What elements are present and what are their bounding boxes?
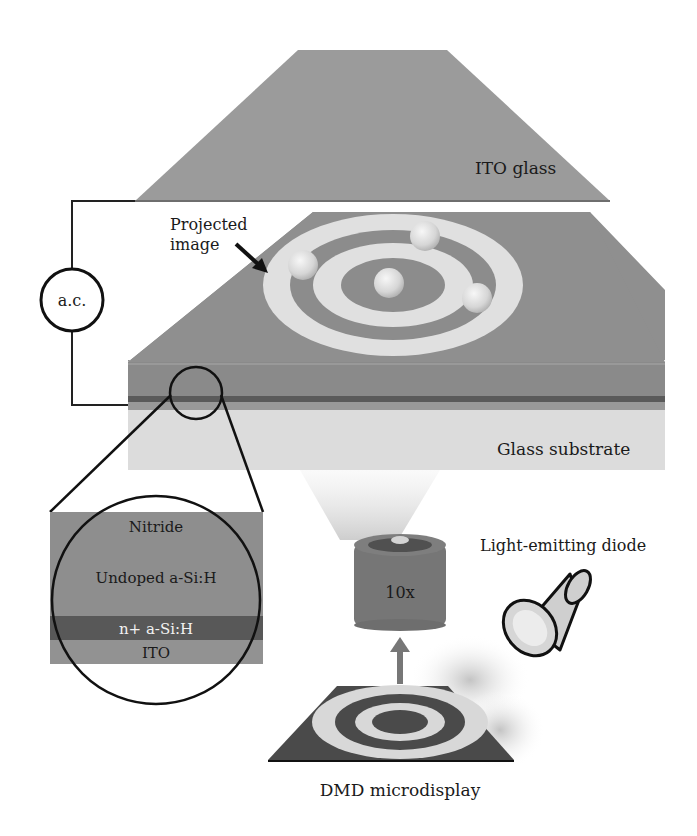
optoelectronic-tweezers-diagram: ITO glass a.c. Glass substrate Pr [0,0,697,836]
objective-magnification-label: 10x [385,583,414,602]
inset-undoped-label: Undoped a-Si:H [95,569,216,587]
microparticle [462,283,492,313]
microparticle [374,268,404,298]
layer-inset: Nitride Undoped a-Si:H n+ a-Si:H ITO [50,496,263,704]
microparticle [288,250,318,280]
inset-nitride-label: Nitride [129,518,184,536]
light-beam [300,470,440,540]
ac-source-icon: a.c. [41,269,103,331]
ac-source-label: a.c. [58,291,87,310]
projected-image [263,214,523,356]
microparticle [410,221,440,251]
upward-arrow-icon [390,637,410,684]
inset-nplus-label: n+ a-Si:H [119,620,193,638]
projected-image-label-line1: Projected [170,215,248,234]
ito-glass-label: ITO glass [475,158,556,178]
led-label: Light-emitting diode [480,536,646,555]
dmd-label: DMD microdisplay [320,780,481,800]
ito-glass-plate: ITO glass [135,50,610,201]
glass-substrate-label: Glass substrate [497,439,630,459]
projected-image-label-line2: image [170,235,220,254]
inset-ito-label: ITO [142,644,170,662]
objective-lens: 10x [354,534,446,631]
